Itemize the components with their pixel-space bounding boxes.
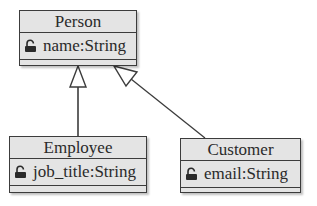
- class-name: Customer: [181, 139, 300, 161]
- lock-icon: [185, 167, 199, 181]
- attribute-text: name:String: [43, 33, 126, 59]
- attribute-row[interactable]: name:String: [20, 33, 136, 60]
- customer-generalization-arrowhead: [114, 66, 137, 86]
- lock-icon: [14, 165, 28, 179]
- class-customer[interactable]: Customer email:String: [180, 138, 301, 193]
- operations-compartment: [181, 188, 300, 195]
- attribute-text: job_title:String: [33, 159, 136, 185]
- operations-compartment: [20, 60, 136, 67]
- customer-generalization-line: [131, 79, 205, 138]
- lock-icon: [24, 39, 38, 53]
- class-person[interactable]: Person name:String: [19, 10, 137, 66]
- class-name: Employee: [10, 137, 146, 159]
- operations-compartment: [10, 186, 146, 193]
- attribute-row[interactable]: email:String: [181, 161, 300, 188]
- employee-generalization-arrowhead: [70, 66, 86, 87]
- class-employee[interactable]: Employee job_title:String: [9, 136, 147, 193]
- class-name: Person: [20, 11, 136, 33]
- attribute-text: email:String: [204, 161, 288, 187]
- attribute-row[interactable]: job_title:String: [10, 159, 146, 186]
